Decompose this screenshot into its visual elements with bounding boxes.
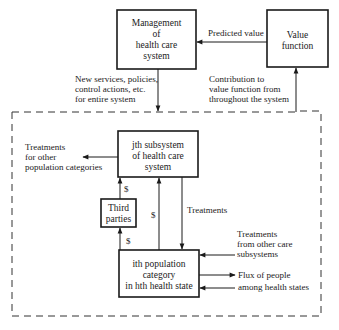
flux-label-1: Flux of people xyxy=(238,270,291,280)
health-care-system-diagram: Management of health care system Value f… xyxy=(0,0,339,330)
third-parties-line-1: Third xyxy=(108,203,129,213)
third-parties-box: Third parties xyxy=(101,199,136,227)
new-services-label-3: for entire system xyxy=(75,94,135,104)
management-box: Management of health care system xyxy=(117,10,196,69)
treatments-other-pop-label-1: Treatments xyxy=(25,142,66,152)
dollar-pop-to-subsystem-label: $ xyxy=(151,210,156,220)
population-box: ith population category in hth health st… xyxy=(119,250,199,297)
value-function-line-1: Value xyxy=(287,30,309,40)
management-line-2: of xyxy=(153,29,162,39)
subsystem-line-2: of health care xyxy=(132,151,184,161)
subsystem-line-1: jth subsystem xyxy=(131,140,185,150)
contribution-label-2: value function from xyxy=(209,84,280,94)
population-line-3: in hth health state xyxy=(125,281,192,291)
value-function-box: Value function xyxy=(267,10,328,67)
subsystem-line-3: system xyxy=(145,162,172,172)
contribution-label-3: throughout the system xyxy=(209,94,289,104)
value-function-line-2: function xyxy=(282,41,314,51)
new-services-label-1: New services, policies, xyxy=(75,74,158,84)
flux-label-2: among health states xyxy=(238,282,309,292)
treatments-other-sub-label-1: Treatments xyxy=(237,229,278,239)
contribution-label-1: Contribution to xyxy=(209,74,265,84)
population-line-2: category xyxy=(143,270,176,280)
subsystem-box: jth subsystem of health care system xyxy=(118,131,198,177)
new-services-label-2: control actions, etc. xyxy=(75,84,145,94)
treatments-other-pop-label-2: for other xyxy=(25,152,56,162)
treatments-other-pop-label-3: population categories xyxy=(25,162,103,172)
dollar-pop-to-third-label: $ xyxy=(126,236,131,246)
dollar-third-to-subsystem-label: $ xyxy=(124,184,129,194)
predicted-value-label: Predicted value xyxy=(208,28,264,38)
management-line-4: system xyxy=(143,51,170,61)
management-line-1: Management xyxy=(132,18,182,28)
treatments-label: Treatments xyxy=(187,205,228,215)
management-line-3: health care xyxy=(136,40,177,50)
third-parties-line-2: parties xyxy=(106,214,132,224)
population-line-1: ith population xyxy=(132,259,185,269)
treatments-other-sub-label-2: from other care xyxy=(237,239,292,249)
treatments-other-sub-label-3: subsystems xyxy=(237,249,279,259)
